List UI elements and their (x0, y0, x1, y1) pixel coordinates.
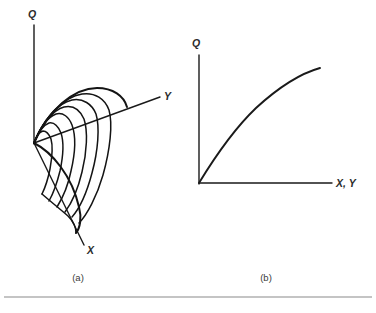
panel-a-group: Q Y X (a) (28, 8, 172, 283)
panel-a-ridge-curve-2 (34, 94, 111, 223)
panel-a-x-axis-label: X (86, 244, 95, 256)
figure-container: Q Y X (a) Q X, Y (b) (0, 0, 376, 313)
panel-b-caption: (b) (260, 272, 272, 283)
panel-a-ridge-curve-3 (34, 100, 98, 217)
panel-b-xy-axis-label: X, Y (335, 177, 357, 189)
panel-b-group: Q X, Y (b) (192, 37, 357, 283)
panel-a-y-axis-label: Y (164, 90, 172, 102)
figure-svg: Q Y X (a) Q X, Y (b) (0, 0, 376, 313)
panel-a-surface-front-rim (42, 194, 76, 233)
panel-b-total-product-curve (199, 68, 320, 183)
panel-b-q-axis-label: Q (192, 37, 200, 49)
panel-a-caption: (a) (72, 272, 84, 283)
panel-a-q-axis-label: Q (28, 8, 36, 20)
